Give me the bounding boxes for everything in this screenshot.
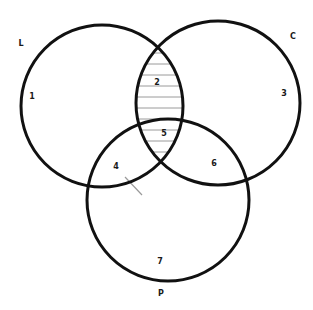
set-label-L: L (18, 40, 23, 48)
set-label-P: P (158, 290, 164, 298)
set-label-C: C (290, 33, 296, 41)
region-label-6: 6 (211, 160, 217, 168)
region-label-5: 5 (161, 130, 167, 138)
set-circle-P (87, 119, 249, 281)
region-label-2: 2 (154, 79, 160, 87)
set-circle-L (21, 25, 183, 187)
region-label-1: 1 (29, 93, 35, 101)
set-circle-C (136, 21, 300, 185)
venn-diagram: L C P 1 2 3 4 5 6 7 (0, 0, 313, 310)
region-label-3: 3 (281, 90, 287, 98)
region-label-7: 7 (157, 258, 163, 266)
region-label-4: 4 (113, 163, 119, 171)
